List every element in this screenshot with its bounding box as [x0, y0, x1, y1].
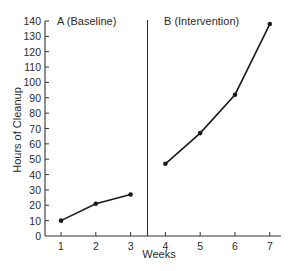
line-chart: 0102030405060708090100110120130140123456… — [0, 0, 293, 271]
phase-a-label: A (Baseline) — [57, 15, 116, 27]
y-tick-label: 80 — [29, 107, 41, 119]
data-line-phase-b — [165, 24, 269, 164]
y-tick-label: 110 — [24, 61, 41, 73]
x-tick-label: 3 — [128, 240, 134, 252]
phase-b-label: B (Intervention) — [164, 15, 239, 27]
x-tick-label: 7 — [267, 240, 273, 252]
y-tick-label: 10 — [29, 215, 41, 227]
data-point — [163, 162, 168, 167]
data-point — [233, 92, 238, 97]
y-tick-label: 130 — [23, 30, 41, 42]
y-tick-label: 120 — [23, 46, 41, 58]
y-tick-label: 30 — [29, 184, 41, 196]
data-point — [198, 131, 203, 136]
y-tick-label: 100 — [23, 76, 41, 88]
y-tick-label: 60 — [29, 138, 41, 150]
data-line-phase-a — [61, 195, 131, 221]
axes: 0102030405060708090100110120130140123456… — [23, 15, 281, 252]
y-tick-label: 40 — [29, 169, 41, 181]
y-tick-label: 20 — [29, 199, 41, 211]
data-point — [128, 192, 133, 197]
x-tick-label: 1 — [58, 240, 64, 252]
x-tick-label: 6 — [232, 240, 238, 252]
y-tick-label: 70 — [29, 123, 41, 135]
y-tick-label: 140 — [23, 15, 41, 27]
x-axis-label: Weeks — [142, 248, 176, 260]
data-point — [59, 218, 64, 223]
x-tick-label: 5 — [197, 240, 203, 252]
y-axis-label: Hours of Cleanup — [11, 87, 23, 173]
plot-area — [59, 22, 272, 223]
x-tick-label: 2 — [93, 240, 99, 252]
data-point — [94, 201, 99, 206]
y-tick-label: 50 — [29, 153, 41, 165]
data-point — [268, 22, 273, 27]
y-tick-label: 0 — [35, 230, 41, 242]
y-tick-label: 90 — [29, 92, 41, 104]
